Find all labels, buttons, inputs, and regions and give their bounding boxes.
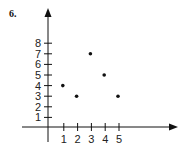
- data-point: [75, 94, 79, 98]
- x-tick-label: 4: [102, 133, 108, 145]
- y-tick-label: 4: [35, 80, 41, 92]
- x-tick-label: 5: [116, 133, 122, 145]
- x-tick-label: 3: [88, 133, 94, 145]
- data-point: [116, 94, 120, 98]
- scatter-plot: 1234512345678: [0, 0, 182, 154]
- y-axis-arrow-icon: [45, 8, 52, 17]
- y-tick-label: 3: [35, 90, 41, 102]
- data-point: [89, 52, 93, 56]
- y-tick-label: 7: [35, 48, 41, 60]
- y-tick-label: 1: [35, 111, 41, 123]
- data-point: [61, 84, 65, 88]
- data-point: [102, 73, 106, 77]
- x-tick-label: 2: [75, 133, 81, 145]
- y-tick-label: 8: [35, 37, 41, 49]
- y-tick-label: 2: [35, 101, 41, 113]
- y-tick-label: 5: [35, 69, 41, 81]
- x-axis-arrow-icon: [169, 124, 178, 131]
- y-tick-label: 6: [35, 58, 41, 70]
- x-tick-label: 1: [61, 133, 67, 145]
